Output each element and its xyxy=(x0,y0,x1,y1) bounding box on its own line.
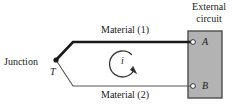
material-1-label: Material (1) xyxy=(101,24,149,35)
thermocouple-diagram: External circuit Junction T Material (1)… xyxy=(0,0,234,108)
external-circuit-label: External circuit xyxy=(186,1,232,24)
material-2-label: Material (2) xyxy=(101,89,149,100)
terminal-a-node-icon xyxy=(191,40,196,45)
terminal-a-label: A xyxy=(202,36,208,47)
terminal-b-node-icon xyxy=(191,84,196,89)
current-label: i xyxy=(121,55,124,66)
current-arrowhead-icon xyxy=(130,66,136,73)
junction-temperature-label: T xyxy=(50,66,56,77)
terminal-b-label: B xyxy=(202,80,208,91)
junction-dot-icon xyxy=(53,57,58,62)
junction-label: Junction xyxy=(4,56,38,67)
